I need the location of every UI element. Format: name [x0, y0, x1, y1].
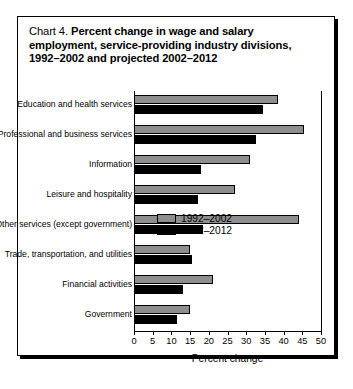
chart-title-lead: Chart 4. [29, 25, 68, 37]
x-tick-label: 20 [204, 336, 214, 346]
bar-group: Professional and business services [134, 125, 321, 155]
bar [134, 165, 201, 174]
bar [134, 275, 213, 284]
chart-title-line-2: employment, service-providing industry d… [29, 39, 291, 51]
x-tick-label: 35 [260, 336, 270, 346]
bar [134, 315, 177, 324]
x-tick-label: 0 [131, 336, 136, 346]
bar-group: Financial activities [134, 275, 321, 305]
chart-title: Chart 4. Percent change in wage and sala… [29, 25, 325, 66]
category-label: Professional and business services [0, 129, 132, 139]
category-label: Financial activities [0, 279, 132, 289]
bar [134, 125, 304, 134]
x-tick-label: 25 [222, 336, 232, 346]
bar [134, 285, 183, 294]
bar-group: Government [134, 305, 321, 335]
bar [134, 195, 198, 204]
legend-label-1992-2002: 1992–2002 [181, 213, 232, 224]
legend: 1992–2002 2002–2012 [157, 213, 249, 237]
category-label: Government [0, 309, 132, 319]
category-label: Leisure and hospitality [0, 189, 132, 199]
bar [134, 255, 192, 264]
x-tick-label: 45 [297, 336, 307, 346]
category-label: Other services (except government) [0, 219, 132, 229]
chart-panel: Chart 4. Percent change in wage and sala… [17, 16, 335, 356]
bar-group: Information [134, 155, 321, 185]
bar [134, 305, 190, 314]
bar [134, 135, 256, 144]
category-label: Education and health services [0, 99, 132, 109]
chart-title-line-3: 1992–2002 and projected 2002–2012 [29, 52, 217, 64]
category-label: Trade, transportation, and utilities [0, 249, 132, 259]
bar-group: Education and health services [134, 95, 321, 125]
bar-group: Leisure and hospitality [134, 185, 321, 215]
bar-group: Trade, transportation, and utilities [134, 245, 321, 275]
bar [134, 155, 250, 164]
x-tick-label: 15 [185, 336, 195, 346]
x-tick-label: 5 [150, 336, 155, 346]
chart-title-line-1: Percent change in wage and salary [71, 25, 254, 37]
legend-label-2002-2012: 2002–2012 [181, 225, 232, 236]
plot-right-edge [321, 91, 322, 331]
plot-area: 05101520253035404550 Education and healt… [134, 91, 321, 331]
x-tick-label: 50 [316, 336, 326, 346]
bar [134, 185, 235, 194]
x-tick-label: 40 [278, 336, 288, 346]
x-tick-label: 30 [241, 336, 251, 346]
legend-item-series-1: 1992–2002 [157, 213, 249, 224]
legend-swatch-2002-2012 [157, 226, 176, 235]
category-label: Information [0, 159, 132, 169]
x-tick [321, 331, 322, 335]
x-axis-label: Percent change [134, 353, 321, 364]
legend-item-series-2: 2002–2012 [157, 225, 249, 236]
bar [134, 105, 263, 114]
bar [134, 245, 190, 254]
x-tick-label: 10 [166, 336, 176, 346]
legend-swatch-1992-2002 [157, 214, 176, 223]
bar [134, 95, 278, 104]
